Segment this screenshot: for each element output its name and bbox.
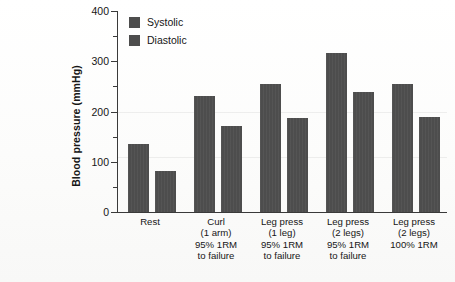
y-tick-label: 400 xyxy=(91,5,109,17)
y-tick-major xyxy=(111,112,117,113)
legend-swatch-icon xyxy=(129,35,140,46)
legend-label: Systolic xyxy=(147,16,183,28)
legend-swatch-icon xyxy=(129,17,140,28)
category-label-line: Rest xyxy=(117,216,183,227)
y-tick-minor xyxy=(113,86,117,87)
category-label-line: Leg press xyxy=(381,216,447,227)
category-label-line: (2 legs) xyxy=(381,227,447,238)
y-tick-minor xyxy=(113,187,117,188)
y-tick-major xyxy=(111,61,117,62)
y-tick-major xyxy=(111,11,117,12)
y-tick-minor xyxy=(113,137,117,138)
category-label-line: 100% 1RM xyxy=(381,239,447,250)
y-axis-title: Blood pressure (mmHg) xyxy=(70,36,82,216)
y-tick-label: 300 xyxy=(91,55,109,67)
category-label-line: (1 leg) xyxy=(249,227,315,238)
bar xyxy=(419,117,440,212)
y-tick-major xyxy=(111,212,117,213)
category-label-line: 95% 1RM xyxy=(249,239,315,250)
category-label-line: (1 arm) xyxy=(183,227,249,238)
bar xyxy=(392,84,413,212)
category-label: Curl(1 arm)95% 1RMto failure xyxy=(183,216,249,262)
category-label-line: 95% 1RM xyxy=(315,239,381,250)
category-label: Leg press(2 legs)100% 1RM xyxy=(381,216,447,250)
bar xyxy=(128,144,149,212)
x-axis-line xyxy=(117,212,447,213)
chart-legend: SystolicDiastolic xyxy=(129,15,187,51)
bar xyxy=(287,118,308,212)
y-tick-label: 200 xyxy=(91,106,109,118)
y-tick-label: 0 xyxy=(103,206,109,218)
category-label-line: 95% 1RM xyxy=(183,239,249,250)
category-label: Rest xyxy=(117,216,183,227)
y-tick-label: 100 xyxy=(91,156,109,168)
category-label: Leg press(1 leg)95% 1RMto failure xyxy=(249,216,315,262)
y-tick-major xyxy=(111,162,117,163)
bar xyxy=(326,53,347,212)
category-label-line: Curl xyxy=(183,216,249,227)
bar xyxy=(353,92,374,212)
category-label-line: Leg press xyxy=(249,216,315,227)
category-label-line: to failure xyxy=(183,250,249,261)
category-label-line: to failure xyxy=(315,250,381,261)
bar xyxy=(194,96,215,212)
category-label-line: to failure xyxy=(249,250,315,261)
bar xyxy=(260,84,281,212)
category-label-line: (2 legs) xyxy=(315,227,381,238)
y-tick-minor xyxy=(113,36,117,37)
legend-label: Diastolic xyxy=(147,34,187,46)
legend-item: Systolic xyxy=(129,15,187,29)
bar xyxy=(155,171,176,212)
category-label-line: Leg press xyxy=(315,216,381,227)
category-label: Leg press(2 legs)95% 1RMto failure xyxy=(315,216,381,262)
chart-figure: Blood pressure (mmHg) 0100200300400 Rest… xyxy=(0,0,455,282)
bar xyxy=(221,126,242,212)
plot-area: 0100200300400 RestCurl(1 arm)95% 1RMto f… xyxy=(117,11,447,212)
legend-item: Diastolic xyxy=(129,33,187,47)
